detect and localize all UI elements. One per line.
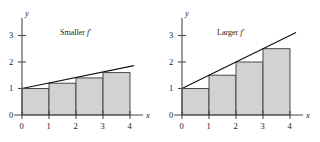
x-axis-label-larger: x [306, 110, 310, 120]
y-axis-label-smaller: y [25, 8, 29, 18]
bar-3 [103, 73, 130, 115]
x-tick-label-4-smaller: 4 [128, 121, 132, 131]
bar-3 [263, 49, 290, 115]
annotation-smaller-fprime: Smaller f′ [60, 28, 91, 37]
x-tick-label-2-larger: 2 [234, 121, 238, 131]
x-tick-label-1-larger: 1 [207, 121, 211, 131]
bar-1 [209, 75, 236, 115]
chart-panel-larger-fprime: y x 3 2 1 0 0 1 2 3 4 Larger f′ [160, 0, 320, 142]
y-tick-label-1-smaller: 1 [9, 83, 13, 93]
x-tick-label-0-larger: 0 [180, 121, 184, 131]
bars-group-smaller [22, 73, 130, 115]
bars-group-larger [182, 49, 290, 115]
annotation-text-smaller: Smaller [60, 28, 87, 37]
bar-1 [49, 83, 76, 115]
y-tick-label-0-smaller: 0 [9, 110, 13, 120]
x-tick-label-2-smaller: 2 [74, 121, 78, 131]
bar-0 [22, 89, 49, 116]
x-tick-label-3-larger: 3 [261, 121, 265, 131]
bar-0 [182, 89, 209, 116]
bar-2 [76, 78, 103, 115]
bar-2 [236, 62, 263, 115]
x-axis-label-smaller: x [146, 110, 150, 120]
y-tick-label-3-larger: 3 [169, 30, 173, 40]
x-tick-label-4-larger: 4 [288, 121, 292, 131]
y-tick-label-2-smaller: 2 [9, 57, 13, 67]
y-tick-label-1-larger: 1 [169, 83, 173, 93]
y-tick-label-2-larger: 2 [169, 57, 173, 67]
annotation-text-larger: Larger [217, 28, 240, 37]
chart-larger-fprime [160, 0, 320, 142]
chart-panel-smaller-fprime: y x 3 2 1 0 0 1 2 3 4 Smaller f′ [0, 0, 160, 142]
figure-container: y x 3 2 1 0 0 1 2 3 4 Smaller f′ [0, 0, 320, 142]
x-tick-label-3-smaller: 3 [101, 121, 105, 131]
x-tick-label-1-smaller: 1 [47, 121, 51, 131]
y-tick-label-3-smaller: 3 [9, 30, 13, 40]
annotation-larger-fprime: Larger f′ [217, 28, 244, 37]
x-tick-label-0-smaller: 0 [20, 121, 24, 131]
y-tick-label-0-larger: 0 [169, 110, 173, 120]
annotation-symbol-smaller: f′ [87, 28, 91, 37]
y-axis-label-larger: y [185, 8, 189, 18]
annotation-symbol-larger: f′ [240, 28, 244, 37]
chart-smaller-fprime [0, 0, 160, 142]
